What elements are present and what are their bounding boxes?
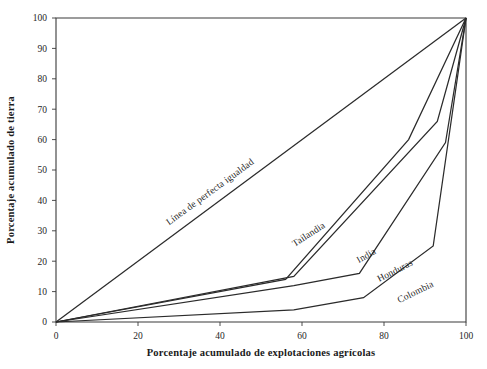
x-axis-tick-label: 100 [459, 331, 474, 341]
y-axis-title: Porcentaje acumulado de tierra [5, 96, 16, 244]
lorenz-curve-figure: 020406080100 0102030405060708090100 Líne… [0, 0, 487, 369]
chart-canvas: 020406080100 0102030405060708090100 Líne… [0, 0, 487, 369]
y-axis-tick-label: 80 [38, 74, 48, 84]
y-axis-tick-label: 30 [38, 226, 48, 236]
series-curve [56, 18, 466, 322]
series-label: Tailandia [290, 219, 327, 249]
y-axis-tick-label: 50 [38, 165, 48, 175]
x-axis-tick-group: 020406080100 [54, 322, 474, 341]
y-axis-tick-label: 0 [42, 317, 47, 327]
series-label: Colombia [395, 278, 435, 305]
y-axis-tick-label: 70 [38, 105, 48, 115]
series-label: Honduras [375, 257, 414, 284]
y-axis-tick-label: 60 [38, 135, 48, 145]
y-axis-tick-group: 0102030405060708090100 [33, 13, 56, 327]
series-curve-group [56, 18, 466, 322]
x-axis-title: Porcentaje acumulado de explotaciones ag… [147, 347, 376, 358]
x-axis-tick-label: 80 [379, 331, 389, 341]
series-label: India [354, 245, 378, 265]
x-axis-tick-label: 40 [215, 331, 225, 341]
y-axis-tick-label: 100 [33, 13, 48, 23]
x-axis-tick-label: 0 [54, 331, 59, 341]
x-axis-tick-label: 20 [133, 331, 143, 341]
y-axis-tick-label: 10 [38, 287, 48, 297]
series-label: Línea de perfecta igualdad [164, 156, 256, 227]
y-axis-tick-label: 90 [38, 44, 48, 54]
series-label-group: Línea de perfecta igualdadTailandiaIndia… [164, 156, 436, 305]
x-axis-tick-label: 60 [297, 331, 307, 341]
y-axis-tick-label: 20 [38, 257, 48, 267]
y-axis-tick-label: 40 [38, 196, 48, 206]
